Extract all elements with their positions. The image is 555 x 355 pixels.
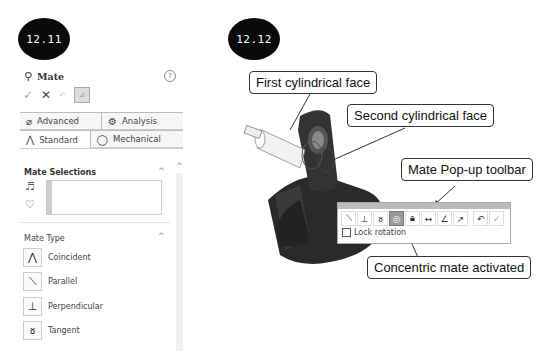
lock-rotation-label: Lock rotation	[354, 228, 406, 237]
parallel-icon[interactable]: ⟍	[341, 211, 356, 226]
lock-rotation-checkbox[interactable]	[342, 228, 351, 237]
undo-icon[interactable]: ↶	[473, 211, 488, 226]
ok-check-icon[interactable]: ✓	[489, 211, 504, 226]
callout-mate-popup-toolbar: Mate Pop-up toolbar	[401, 158, 533, 181]
mate-popup-toolbar: ⟍ ⊥ ᴕ ◎ 🔒︎ ↔ ∠ ↗ ↶ ✓ Lock rotation	[337, 202, 511, 244]
toolbar-icons: ⟍ ⊥ ᴕ ◎ 🔒︎ ↔ ∠ ↗ ↶ ✓	[338, 209, 510, 228]
callout-second-cylindrical-face: Second cylindrical face	[347, 104, 494, 127]
perpendicular-icon[interactable]: ⊥	[357, 211, 372, 226]
concentric-icon[interactable]: ◎	[389, 211, 404, 226]
lock-rotation-row: Lock rotation	[338, 228, 510, 237]
angle-icon[interactable]: ∠	[437, 211, 452, 226]
callout-first-cylindrical-face: First cylindrical face	[249, 71, 377, 94]
tangent-icon[interactable]: ᴕ	[373, 211, 388, 226]
lock-icon[interactable]: 🔒︎	[405, 211, 420, 226]
leader-line-second	[333, 128, 405, 160]
callout-concentric-mate-activated: Concentric mate activated	[367, 256, 531, 279]
flip-alignment-icon[interactable]: ↗	[453, 211, 468, 226]
distance-icon[interactable]: ↔	[421, 211, 436, 226]
